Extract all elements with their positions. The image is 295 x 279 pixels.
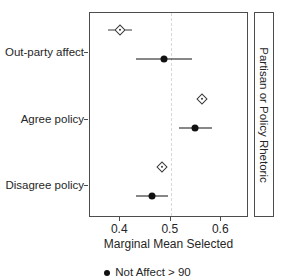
point-not-affect-out-party-affect[interactable] bbox=[114, 24, 125, 35]
y-axis-labels: Out-party affect Agree policy Disagree p… bbox=[0, 0, 84, 279]
x-tick-2 bbox=[220, 217, 221, 221]
point-not-affect-disagree-policy[interactable] bbox=[156, 161, 167, 172]
legend-item-label: Not Affect > 90 bbox=[115, 266, 191, 279]
x-tick-0 bbox=[119, 217, 120, 221]
facet-strip-label: Partisan or Policy Rhetoric bbox=[258, 47, 270, 183]
legend: Not Affect > 90 bbox=[0, 266, 295, 279]
x-tick-label-1: 0.5 bbox=[161, 222, 178, 236]
y-tick-out-party-affect bbox=[84, 52, 88, 53]
legend-circle-icon bbox=[104, 270, 110, 276]
plot-panel bbox=[89, 12, 248, 217]
y-axis-label-disagree-policy: Disagree policy bbox=[5, 179, 84, 191]
point-affect-disagree-policy[interactable] bbox=[148, 192, 155, 199]
point-not-affect-agree-policy[interactable] bbox=[196, 93, 207, 104]
x-axis-title: Marginal Mean Selected bbox=[89, 237, 248, 251]
x-tick-1 bbox=[170, 217, 171, 221]
legend-item-not-affect[interactable]: Not Affect > 90 bbox=[104, 266, 191, 279]
y-axis-label-agree-policy: Agree policy bbox=[21, 113, 84, 125]
y-axis-label-out-party-affect: Out-party affect bbox=[5, 46, 84, 58]
y-tick-agree-policy bbox=[84, 119, 88, 120]
point-affect-out-party-affect[interactable] bbox=[161, 56, 168, 63]
point-affect-agree-policy[interactable] bbox=[192, 124, 199, 131]
facet-strip: Partisan or Policy Rhetoric bbox=[254, 12, 274, 217]
marginal-means-dot-plot: Out-party affect Agree policy Disagree p… bbox=[0, 0, 295, 279]
reference-line-0.5 bbox=[171, 13, 172, 216]
x-tick-label-0: 0.4 bbox=[111, 222, 128, 236]
y-tick-disagree-policy bbox=[84, 185, 88, 186]
x-tick-label-2: 0.6 bbox=[212, 222, 229, 236]
